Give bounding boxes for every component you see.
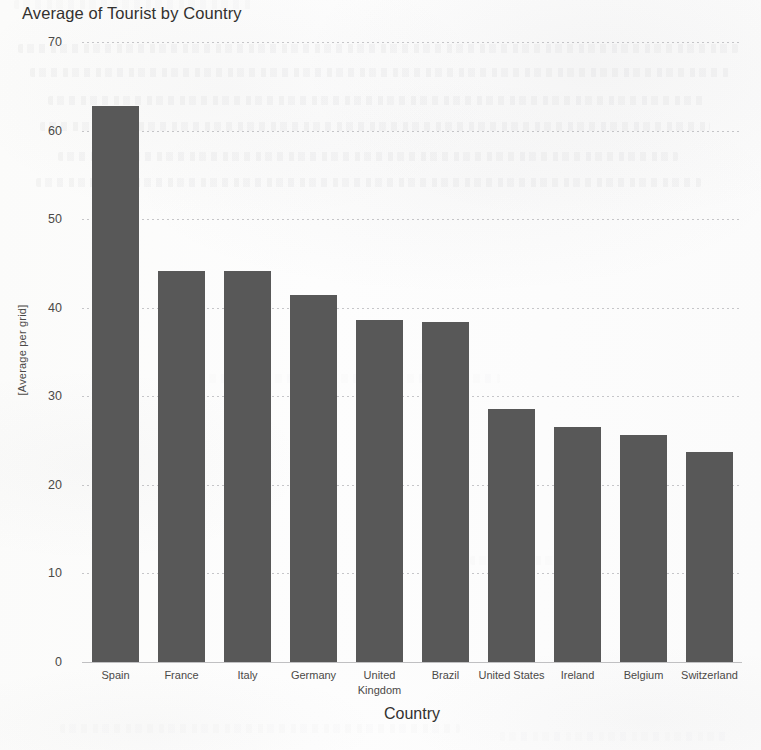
bar[interactable]: [290, 295, 337, 662]
bar[interactable]: [158, 271, 205, 662]
bar[interactable]: [686, 452, 733, 662]
axis-baseline: [82, 662, 742, 663]
y-axis-tick-labels: 0 10 20 30 40 50 60 70: [0, 42, 76, 662]
y-axis-tick: 40: [48, 301, 62, 315]
bar[interactable]: [488, 409, 535, 662]
x-axis-tick: Switzerland: [671, 668, 749, 683]
x-axis-title: Country: [384, 705, 440, 723]
chart-page: Average of Tourist by Country 0 10 20 30…: [0, 0, 761, 750]
y-axis-tick: 50: [48, 212, 62, 226]
bar-series: [82, 42, 742, 662]
bar[interactable]: [554, 427, 601, 662]
y-axis-tick: 20: [48, 478, 62, 492]
y-axis-tick: 30: [48, 389, 62, 403]
bar[interactable]: [356, 320, 403, 662]
bar[interactable]: [224, 271, 271, 662]
y-axis-title: [Average per grid]: [16, 305, 28, 396]
y-axis-tick: 70: [48, 35, 62, 49]
y-axis-tick: 10: [48, 566, 62, 580]
chart-title: Average of Tourist by Country: [22, 4, 242, 23]
y-axis-tick: 0: [55, 655, 62, 669]
plot-area: [82, 42, 742, 662]
bar[interactable]: [422, 322, 469, 662]
bar[interactable]: [92, 106, 139, 662]
y-axis-tick: 60: [48, 124, 62, 138]
bar[interactable]: [620, 435, 667, 662]
